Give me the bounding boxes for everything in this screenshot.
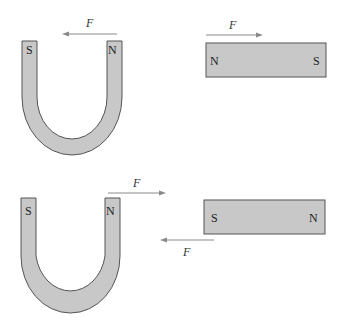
- top-horseshoe-force-arrow: F: [62, 16, 117, 37]
- bottom-bar-left-pole: S: [211, 211, 218, 225]
- bottom-panel: S N F S N F: [21, 176, 325, 313]
- bottom-horseshoe-left-pole: S: [25, 204, 32, 218]
- bottom-bar-force-arrow: F: [160, 238, 214, 260]
- top-panel: S N F N S F: [22, 16, 326, 155]
- top-horseshoe-force-label: F: [85, 16, 94, 30]
- top-horseshoe-magnet: [22, 41, 122, 155]
- top-bar-right-pole: S: [313, 54, 320, 68]
- top-bar-magnet: [206, 43, 326, 77]
- bottom-bar-magnet: [204, 200, 325, 234]
- top-bar-left-pole: N: [210, 54, 219, 68]
- bottom-horseshoe-force-label: F: [132, 176, 141, 190]
- magnet-force-diagram: S N F N S F S N F S N: [0, 0, 340, 327]
- top-horseshoe-left-pole: S: [26, 43, 33, 57]
- top-horseshoe-right-pole: N: [108, 43, 117, 57]
- bottom-horseshoe-right-pole: N: [106, 204, 115, 218]
- top-bar-force-arrow: F: [206, 18, 263, 38]
- bottom-bar-force-label: F: [182, 245, 191, 259]
- bottom-bar-right-pole: N: [309, 211, 318, 225]
- top-bar-force-label: F: [228, 18, 237, 32]
- bottom-horseshoe-force-arrow: F: [108, 176, 166, 196]
